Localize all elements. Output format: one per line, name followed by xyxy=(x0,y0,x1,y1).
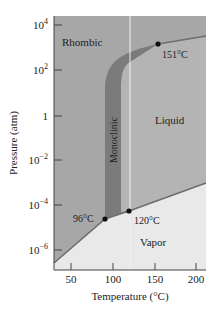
triple-point-label-96: 96°C xyxy=(73,213,94,224)
phase-diagram: 104 102 1 10−2 10−4 10−6 50 100 150 200 … xyxy=(0,0,218,310)
triple-point-label-120: 120°C xyxy=(134,215,160,226)
x-tick-label: 100 xyxy=(105,273,122,285)
triple-point-120 xyxy=(126,208,131,213)
triple-point-96 xyxy=(102,216,107,221)
y-axis-title: Pressure (atm) xyxy=(7,111,20,175)
x-tick-label: 50 xyxy=(66,273,78,285)
y-tick-label: 102 xyxy=(33,62,48,76)
x-axis-title: Temperature (°C) xyxy=(91,290,169,303)
x-tick-label: 150 xyxy=(147,273,164,285)
x-tick-label: 200 xyxy=(188,273,205,285)
y-tick-label: 10−4 xyxy=(28,197,48,211)
triple-point-151 xyxy=(155,41,160,46)
y-tick-label: 10−2 xyxy=(28,152,48,166)
region-label-monoclinic: Monoclinic xyxy=(108,116,119,163)
region-label-rhombic: Rhombic xyxy=(62,36,102,48)
y-tick-label: 1 xyxy=(43,110,49,122)
triple-point-label-151: 151°C xyxy=(162,49,188,60)
region-label-vapor: Vapor xyxy=(140,236,167,248)
y-tick-label: 10−6 xyxy=(28,242,48,256)
region-label-liquid: Liquid xyxy=(155,114,185,126)
y-tick-label: 104 xyxy=(33,17,48,31)
